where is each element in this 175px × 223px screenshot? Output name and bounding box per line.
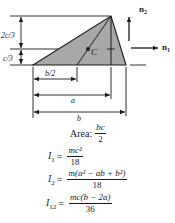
area-fraction: bc 2 <box>95 123 106 144</box>
i1-symbol: I1 <box>48 150 55 164</box>
i2-fraction: m(a² − ab + b²) 18 <box>67 169 126 190</box>
i2-symbol: I2 <box>48 173 55 187</box>
area-denominator: 2 <box>98 134 103 144</box>
area-numerator: bc <box>95 123 106 134</box>
i2-equals: = <box>57 174 63 185</box>
i12-numerator: mc(b − 2a) <box>69 193 112 204</box>
dim-base-label: b <box>77 114 81 123</box>
dim-apex-offset-label: a <box>71 96 75 105</box>
i12-symbol: I12 <box>46 197 56 211</box>
i12-denominator: 36 <box>86 204 95 214</box>
i12-fraction: mc(b − 2a) 36 <box>69 193 112 214</box>
centroid-label: C <box>91 47 98 57</box>
triangle-figure: C 2c/3 c/3 b/2 a b n2 n1 <box>0 0 175 123</box>
i1-numerator: mc² <box>67 146 82 157</box>
n1-axis-label: n1 <box>162 42 170 53</box>
dim-upper-height-label: 2c/3 <box>1 31 15 40</box>
centroid-dot <box>86 47 90 51</box>
i1-equals: = <box>57 151 63 162</box>
extension-lines <box>10 16 146 118</box>
i12-formula: I12 = mc(b − 2a) 36 <box>46 193 112 214</box>
n2-axis-label: n2 <box>139 4 147 15</box>
triangle-shape <box>33 16 126 65</box>
i12-equals: = <box>58 198 64 209</box>
i1-denominator: 18 <box>71 157 80 167</box>
area-formula: Area: bc 2 <box>70 123 106 144</box>
dim-lower-height-label: c/3 <box>3 54 13 63</box>
i2-numerator: m(a² − ab + b²) <box>67 169 126 180</box>
dim-half-base-label: b/2 <box>45 69 55 78</box>
i1-formula: I1 = mc² 18 <box>48 146 83 167</box>
i1-fraction: mc² 18 <box>67 146 82 167</box>
i2-denominator: 18 <box>93 180 102 190</box>
i2-formula: I2 = m(a² − ab + b²) 18 <box>48 169 127 190</box>
area-label: Area: <box>70 128 92 139</box>
